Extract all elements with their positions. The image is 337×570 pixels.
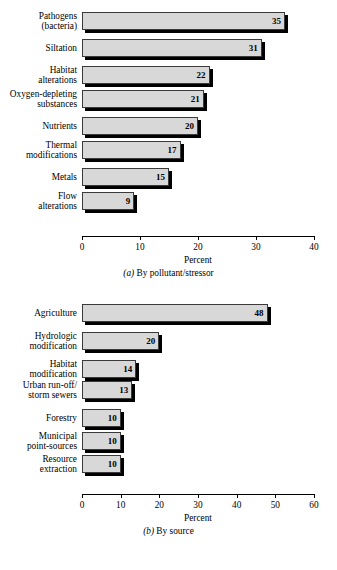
category-label: Pathogens (bacteria)	[0, 11, 77, 31]
axis-tick	[198, 236, 199, 240]
bar-row: Nutrients20	[0, 117, 337, 135]
bar-value-label: 22	[197, 71, 206, 80]
x-axis-b: 0102030405060Percent	[0, 494, 337, 524]
bar-value-label: 13	[119, 386, 128, 395]
category-label: Forestry	[0, 413, 77, 423]
bar: 35	[82, 12, 285, 30]
bar-row: Siltation31	[0, 39, 337, 57]
category-label: Municipal point-sources	[0, 431, 77, 451]
axis-tick	[314, 236, 315, 240]
category-label: Siltation	[0, 43, 77, 53]
bar: 10	[82, 409, 121, 427]
category-label: Oxygen-depleting substances	[0, 89, 77, 109]
bar-row: Forestry10	[0, 409, 337, 427]
axis-tick	[275, 494, 276, 498]
category-label: Thermal modifications	[0, 140, 77, 160]
bar: 10	[82, 455, 121, 473]
axis-tick-label: 20	[185, 242, 211, 252]
bar: 13	[82, 381, 132, 399]
axis-tick	[82, 236, 83, 240]
axis-tick-label: 30	[185, 500, 211, 510]
bar: 31	[82, 39, 262, 57]
figure-caption-a: (a) By pollutant/stressor	[0, 268, 337, 278]
bar-container: 20	[82, 332, 159, 350]
axis-tick	[237, 494, 238, 498]
bar-container: 13	[82, 381, 132, 399]
category-label: Agriculture	[0, 308, 77, 318]
bar-row: Habitat alterations22	[0, 66, 337, 84]
bar: 15	[82, 168, 169, 186]
bar-value-label: 10	[108, 414, 117, 423]
category-label: Habitat modification	[0, 359, 77, 379]
axis-tick-label: 10	[108, 500, 134, 510]
category-label: Nutrients	[0, 121, 77, 131]
bar-value-label: 15	[156, 173, 165, 182]
bar-value-label: 17	[168, 146, 177, 155]
bar-row: Resource extraction10	[0, 455, 337, 473]
bar-container: 9	[82, 192, 134, 210]
bar-value-label: 31	[249, 44, 258, 53]
bar-container: 48	[82, 304, 268, 322]
axis-tick-label: 30	[243, 242, 269, 252]
x-axis-title: Percent	[82, 513, 314, 523]
bar-row: Flow alterations9	[0, 192, 337, 210]
axis-tick	[198, 494, 199, 498]
bar-container: 17	[82, 141, 181, 159]
bar-row: Agriculture48	[0, 304, 337, 322]
bar: 48	[82, 304, 268, 322]
bar-container: 14	[82, 360, 136, 378]
bar-row: Thermal modifications17	[0, 141, 337, 159]
category-label: Resource extraction	[0, 454, 77, 474]
category-label: Hydrologic modification	[0, 331, 77, 351]
bar-value-label: 9	[126, 197, 131, 206]
bar-container: 10	[82, 409, 121, 427]
axis-tick	[82, 494, 83, 498]
bar-value-label: 35	[272, 17, 281, 26]
axis-tick-label: 0	[69, 500, 95, 510]
category-label: Flow alterations	[0, 191, 77, 211]
axis-tick-label: 40	[301, 242, 327, 252]
axis-tick-label: 40	[224, 500, 250, 510]
axis-tick-label: 60	[301, 500, 327, 510]
category-label: Habitat alterations	[0, 65, 77, 85]
x-axis-a: 010203040Percent	[0, 236, 337, 266]
category-label: Metals	[0, 172, 77, 182]
bar: 21	[82, 90, 204, 108]
category-label: Urban run-off/ storm sewers	[0, 380, 77, 400]
bar-container: 10	[82, 455, 121, 473]
bar-container: 10	[82, 432, 121, 450]
bar-row: Habitat modification14	[0, 360, 337, 378]
caption-text: By pollutant/stressor	[134, 268, 214, 278]
axis-tick	[256, 236, 257, 240]
axis-tick	[159, 494, 160, 498]
figure-b-by-source: Agriculture48Hydrologic modification20Ha…	[0, 292, 337, 570]
bar-value-label: 10	[108, 437, 117, 446]
bar-container: 20	[82, 117, 198, 135]
bar-container: 35	[82, 12, 285, 30]
bar: 9	[82, 192, 134, 210]
bar-value-label: 20	[146, 337, 155, 346]
bar-row: Metals15	[0, 168, 337, 186]
bar: 17	[82, 141, 181, 159]
axis-tick	[314, 494, 315, 498]
axis-tick-label: 50	[262, 500, 288, 510]
bar: 10	[82, 432, 121, 450]
axis-tick-label: 0	[69, 242, 95, 252]
bar-row: Hydrologic modification20	[0, 332, 337, 350]
bar: 20	[82, 332, 159, 350]
axis-tick-label: 10	[127, 242, 153, 252]
figure-caption-b: (b) By source	[0, 526, 337, 536]
bar-value-label: 48	[255, 309, 264, 318]
bar-container: 21	[82, 90, 204, 108]
bar-container: 31	[82, 39, 262, 57]
axis-tick-label: 20	[146, 500, 172, 510]
caption-text: By source	[154, 526, 194, 536]
caption-prefix: (b)	[143, 526, 154, 536]
figure-a-by-pollutant-stressor: Pathogens (bacteria)35Siltation31Habitat…	[0, 0, 337, 290]
bar-container: 15	[82, 168, 169, 186]
bar-row: Pathogens (bacteria)35	[0, 12, 337, 30]
x-axis-title: Percent	[82, 255, 314, 265]
bar-row: Municipal point-sources10	[0, 432, 337, 450]
bar: 14	[82, 360, 136, 378]
bar-row: Urban run-off/ storm sewers13	[0, 381, 337, 399]
